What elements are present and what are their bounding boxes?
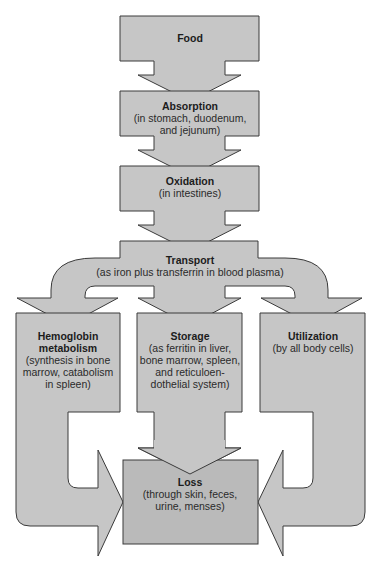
hemoglobin-description-line: marrow, catabolism bbox=[23, 366, 114, 378]
food-label: Food bbox=[177, 32, 203, 44]
food-node bbox=[120, 16, 259, 101]
loss-description-line: (through skin, feces, bbox=[143, 488, 238, 500]
storage-description-line: (as ferritin in liver, bbox=[149, 342, 231, 354]
transport-title-line: Transport bbox=[166, 254, 215, 266]
food-title-line: Food bbox=[177, 32, 203, 44]
storage-description-line: and reticuloen- bbox=[155, 366, 225, 378]
iron-metabolism-diagram: Food Absorption(in stomach, duodenum,and… bbox=[0, 0, 381, 570]
loss-title-line: Loss bbox=[178, 476, 203, 488]
absorption-title-line: Absorption bbox=[162, 100, 218, 112]
oxidation-description-line: (in intestines) bbox=[159, 187, 221, 199]
absorption-description-line: and jejunum) bbox=[160, 124, 221, 136]
storage-description-line: dothelial system) bbox=[151, 378, 230, 390]
hemoglobin-title-line: metabolism bbox=[39, 342, 97, 354]
hemoglobin-description-line: (synthesis in bone bbox=[26, 354, 111, 366]
transport-description-line: (as iron plus transferrin in blood plasm… bbox=[96, 266, 283, 278]
hemoglobin-title-line: Hemoglobin bbox=[38, 330, 99, 342]
storage-title-line: Storage bbox=[170, 330, 209, 342]
oxidation-label: Oxidation(in intestines) bbox=[159, 175, 221, 199]
utilization-description-line: (by all body cells) bbox=[272, 342, 353, 354]
hemoglobin-description-line: in spleen) bbox=[45, 378, 91, 390]
storage-description-line: bone marrow, spleen, bbox=[140, 354, 240, 366]
absorption-description-line: (in stomach, duodenum, bbox=[134, 112, 247, 124]
oxidation-title-line: Oxidation bbox=[166, 175, 214, 187]
loss-description-line: urine, menses) bbox=[155, 500, 224, 512]
utilization-title-line: Utilization bbox=[288, 330, 338, 342]
